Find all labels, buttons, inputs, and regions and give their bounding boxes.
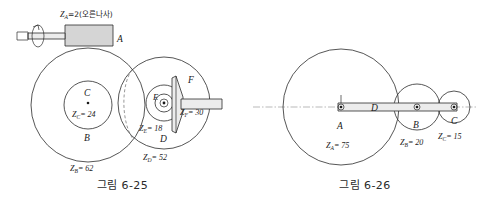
zB-value: = 62 bbox=[78, 164, 93, 173]
label-E: E bbox=[152, 92, 159, 102]
label-B: B bbox=[413, 120, 419, 130]
label-C: C bbox=[451, 116, 458, 126]
figure-6-26-svg: D A ZA= 75 B ZB= 20 C ZC= 15 bbox=[245, 0, 485, 176]
zA2-value: = 75 bbox=[334, 141, 349, 150]
worm-A-shaft-endcap bbox=[17, 32, 28, 40]
pivot-B-center bbox=[416, 106, 419, 109]
label-D: D bbox=[370, 103, 378, 113]
label-E-teeth: ZE= 18 bbox=[139, 124, 162, 134]
zB2-value: = 20 bbox=[408, 138, 423, 147]
label-B-teeth: ZB= 20 bbox=[400, 138, 423, 148]
zA-value: =2(오른나사) bbox=[68, 10, 113, 19]
shaft-DE-center bbox=[163, 102, 166, 105]
pivot-A-center bbox=[340, 106, 343, 109]
arm-D-body bbox=[338, 103, 457, 111]
label-A: A bbox=[116, 34, 123, 44]
pivot-C-center bbox=[453, 106, 456, 109]
label-C-teeth: ZC= 24 bbox=[72, 110, 96, 120]
label-F: F bbox=[187, 75, 194, 85]
label-B-teeth: ZB= 62 bbox=[70, 164, 93, 174]
zC-value: = 24 bbox=[80, 110, 95, 119]
figure-6-25-caption: 그림 6-25 bbox=[0, 176, 245, 192]
zF-value: = 30 bbox=[188, 108, 203, 117]
label-D-teeth: ZD= 52 bbox=[143, 153, 167, 163]
diagram-page: ZA=2(오른나사) A C ZC= 24 B ZB= 62 D ZD= 52 … bbox=[0, 0, 485, 206]
label-C-teeth: ZC= 15 bbox=[438, 132, 462, 142]
label-D: D bbox=[159, 134, 167, 144]
zC2-value: = 15 bbox=[446, 132, 461, 141]
zE-value: = 18 bbox=[147, 124, 162, 133]
label-A: A bbox=[336, 121, 343, 131]
label-C: C bbox=[84, 88, 91, 98]
label-F-teeth: ZF= 30 bbox=[180, 108, 203, 118]
figure-6-25-svg: ZA=2(오른나사) A C ZC= 24 B ZB= 62 D ZD= 52 … bbox=[0, 0, 245, 176]
worm-A-shaft bbox=[28, 33, 65, 39]
label-B: B bbox=[84, 133, 90, 143]
shaft-BC-center bbox=[87, 102, 90, 105]
worm-A-body bbox=[65, 25, 113, 46]
hidden-outline-arc bbox=[124, 70, 133, 139]
zD-value: = 52 bbox=[152, 153, 167, 162]
gear-B-circle bbox=[31, 48, 145, 162]
svg-text:ZA=2(오른나사): ZA=2(오른나사) bbox=[60, 10, 113, 20]
label-worm-A-teeth: ZA=2(오른나사) bbox=[60, 10, 113, 20]
figure-6-26-caption: 그림 6-26 bbox=[245, 176, 485, 192]
label-A-teeth: ZA= 75 bbox=[326, 141, 349, 151]
